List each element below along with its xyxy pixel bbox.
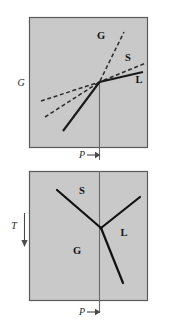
- top-panel-y-axis-label: G: [17, 77, 24, 88]
- triple-point-marker: [99, 226, 102, 229]
- temperature-arrow-head: [21, 240, 27, 247]
- bottom-pressure-label: P: [78, 306, 85, 317]
- bottom-panel-group: S L G: [30, 172, 148, 314]
- top-panel-background: [30, 18, 148, 148]
- bottom-region-label-solid: S: [79, 185, 85, 196]
- bottom-region-label-liquid: L: [120, 227, 127, 238]
- top-panel-group: G S L G: [17, 18, 147, 161]
- temperature-label: T: [11, 220, 18, 231]
- top-label-gas: G: [97, 30, 105, 41]
- top-pressure-axis-arrow: P: [78, 149, 101, 160]
- bottom-pressure-axis-arrow: P: [78, 306, 101, 317]
- temperature-axis-arrow: T: [11, 213, 27, 247]
- top-label-solid: S: [125, 52, 131, 63]
- bottom-region-label-gas: G: [73, 245, 81, 256]
- bottom-panel-background: [30, 172, 148, 301]
- top-label-liquid: L: [135, 74, 142, 85]
- top-pressure-label: P: [78, 149, 85, 160]
- phase-diagram-figure: G S L G P S L G: [0, 0, 171, 326]
- figure-canvas: G S L G P S L G: [0, 0, 171, 326]
